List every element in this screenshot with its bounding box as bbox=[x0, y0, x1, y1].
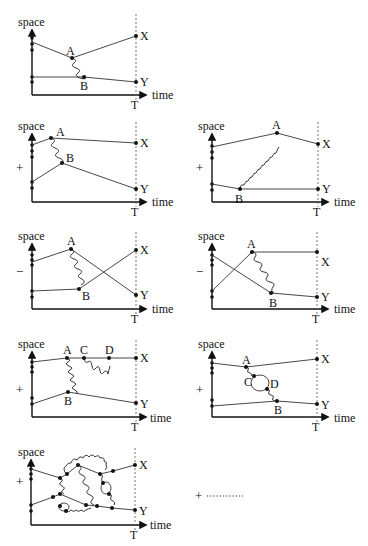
endpoint-x: X bbox=[140, 136, 149, 150]
t-marker-label: T bbox=[312, 420, 320, 434]
vertex-label-a: A bbox=[242, 353, 251, 367]
space-axis-label: space bbox=[18, 119, 45, 133]
sign-label: − bbox=[196, 264, 203, 279]
endpoint-y: Y bbox=[321, 398, 330, 412]
space-axis-label: space bbox=[18, 337, 45, 351]
endpoint-y: Y bbox=[140, 397, 149, 411]
panel-5: − space time T A B X Y bbox=[196, 229, 355, 326]
endpoint-y: Y bbox=[322, 182, 331, 196]
endpoint-y: Y bbox=[140, 288, 149, 302]
endpoint-x: X bbox=[140, 243, 149, 257]
t-marker-label: T bbox=[131, 205, 139, 219]
photon-line bbox=[70, 249, 84, 285]
endpoint-x: X bbox=[139, 458, 148, 472]
feynman-diagram-figure: space time T A B X Y + space time T A B bbox=[0, 0, 368, 546]
sign-label: + bbox=[16, 382, 23, 397]
time-axis-label: time bbox=[334, 302, 355, 316]
vertex-label-b: B bbox=[80, 79, 88, 93]
continuation-plus: + bbox=[195, 488, 202, 503]
endpoint-y: Y bbox=[321, 290, 330, 304]
panel-6: + space time T A C D B X Y bbox=[16, 337, 171, 434]
panel-7: + space time T A C D B X Y bbox=[196, 337, 355, 434]
vertex-label-a: A bbox=[66, 44, 75, 58]
photon-line bbox=[240, 147, 279, 189]
space-axis-label: space bbox=[198, 229, 225, 243]
vertex-label-b: B bbox=[82, 289, 90, 303]
time-axis-label: time bbox=[150, 518, 171, 532]
sign-label: + bbox=[196, 160, 203, 175]
vertex-label-b: B bbox=[274, 403, 282, 417]
vertex-label-c: C bbox=[80, 343, 88, 357]
space-axis-label: space bbox=[198, 337, 225, 351]
photon-line bbox=[51, 138, 63, 163]
vertex-label-b: B bbox=[235, 192, 243, 206]
panel-4: − space time T A B X Y bbox=[16, 229, 173, 326]
panel-8: + space time T X Y bbox=[16, 445, 171, 542]
time-axis-label: time bbox=[334, 411, 355, 425]
panel-3: + space time T A B X Y bbox=[196, 118, 355, 219]
time-axis-label: time bbox=[150, 411, 171, 425]
vertex-label-a: A bbox=[272, 118, 281, 132]
space-axis-label: space bbox=[18, 229, 45, 243]
sign-label: + bbox=[196, 382, 203, 397]
endpoint-y: Y bbox=[140, 75, 149, 89]
space-axis-label: space bbox=[18, 445, 45, 459]
vertex-label-a: A bbox=[56, 125, 65, 139]
photon-line bbox=[66, 508, 91, 512]
endpoint-x: X bbox=[321, 255, 330, 269]
t-marker-label: T bbox=[313, 205, 321, 219]
vertex-label-d: D bbox=[270, 377, 279, 391]
photon-line bbox=[252, 252, 274, 293]
photon-line bbox=[60, 478, 65, 494]
time-axis-label: time bbox=[152, 195, 173, 209]
time-axis-label: time bbox=[334, 195, 355, 209]
t-marker-label: T bbox=[130, 528, 138, 542]
endpoint-y: Y bbox=[139, 504, 148, 518]
endpoint-x: X bbox=[140, 29, 149, 43]
vertex-label-a: A bbox=[63, 343, 72, 357]
t-marker-label: T bbox=[312, 312, 320, 326]
t-marker-label: T bbox=[131, 98, 139, 112]
vertex-label-b: B bbox=[64, 394, 72, 408]
t-marker-label: T bbox=[131, 312, 139, 326]
panel-1: space time T A B X Y bbox=[18, 14, 173, 112]
panel-2: + space time T A B X Y bbox=[16, 119, 173, 219]
time-axis-label: time bbox=[152, 302, 173, 316]
endpoint-x: X bbox=[322, 137, 331, 151]
space-axis-label: space bbox=[198, 119, 225, 133]
vertex-label-b: B bbox=[269, 296, 277, 310]
vertex-label-a: A bbox=[247, 237, 256, 251]
sign-label: + bbox=[16, 474, 23, 489]
time-axis-label: time bbox=[152, 88, 173, 102]
endpoint-y: Y bbox=[140, 182, 149, 196]
continuation-series: + bbox=[195, 488, 243, 503]
sign-label: − bbox=[16, 264, 23, 279]
sign-label: + bbox=[16, 160, 23, 175]
vertex-label-b: B bbox=[66, 151, 74, 165]
vertex-label-a: A bbox=[67, 234, 76, 248]
self-energy-photon bbox=[84, 358, 110, 374]
endpoint-x: X bbox=[321, 352, 330, 366]
vertex-label-c: C bbox=[244, 375, 252, 389]
t-marker-label: T bbox=[131, 420, 139, 434]
vertex-label-d: D bbox=[105, 343, 114, 357]
endpoint-x: X bbox=[140, 351, 149, 365]
space-axis-label: space bbox=[18, 15, 45, 29]
photon-line bbox=[66, 358, 77, 394]
